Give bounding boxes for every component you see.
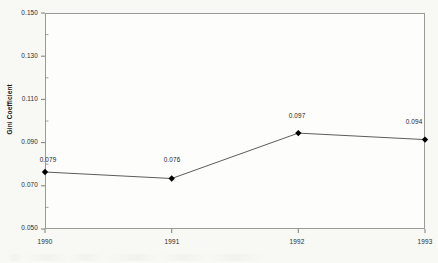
y-tick-label-2: 0.110 [4,96,38,102]
gini-coefficient-line-chart: Gini Coefficient 0.150 0.130 0.110 0.090… [0,0,438,263]
x-ticks [45,229,425,233]
plot-area [45,13,425,229]
y-axis-title: Gini Coefficient [7,77,14,141]
page-scan-artifact [8,254,308,261]
x-tick-label-1993: 1993 [405,239,438,245]
y-tick-label-3: 0.090 [4,139,38,145]
x-tick-label-1992: 1992 [277,239,317,245]
x-tick-label-1990: 1990 [25,239,65,245]
y-tick-label-1: 0.130 [4,53,38,59]
data-label-1992: 0.097 [277,113,317,119]
y-tick-label-0: 0.150 [4,10,38,16]
data-label-1990: 0.079 [28,157,68,163]
y-tick-label-4: 0.070 [4,182,38,188]
data-label-1993: 0.094 [394,119,434,125]
y-tick-label-5: 0.050 [4,225,38,231]
data-label-1991: 0.076 [152,157,192,163]
x-tick-label-1991: 1991 [152,239,192,245]
